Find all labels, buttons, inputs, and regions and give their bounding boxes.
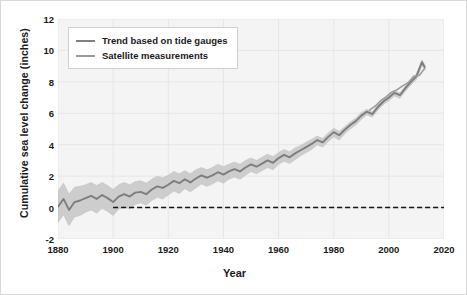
- legend-line-icon-satellite: [76, 55, 95, 57]
- x-axis-tick-1980: 1980: [304, 244, 364, 255]
- x-axis-tick-2000: 2000: [359, 244, 419, 255]
- legend-label-tide-gauges: Trend based on tide gauges: [102, 35, 228, 46]
- x-axis-tick-2020: 2020: [414, 244, 467, 255]
- y-axis-tick-4: 4: [26, 139, 54, 150]
- y-axis-tick-6: 6: [26, 108, 54, 119]
- x-axis-tick-1880: 1880: [28, 244, 88, 255]
- x-axis-tick-1920: 1920: [138, 244, 198, 255]
- y-axis-tick--2: -2: [26, 234, 54, 245]
- x-axis-tick-1900: 1900: [83, 244, 143, 255]
- x-axis-tick-1960: 1960: [249, 244, 309, 255]
- legend-item-tide-gauges: Trend based on tide gauges: [76, 33, 228, 48]
- legend-item-satellite: Satellite measurements: [76, 48, 228, 63]
- y-axis-tick-12: 12: [26, 14, 54, 25]
- x-axis-label: Year: [1, 267, 467, 279]
- y-axis-tick-8: 8: [26, 76, 54, 87]
- legend-line-icon-tide-gauges: [76, 40, 95, 42]
- sea-level-chart-figure: Cumulative sea level change (inches) Yea…: [0, 0, 467, 295]
- y-axis-tick-10: 10: [26, 45, 54, 56]
- x-axis-tick-labels: 18801900192019401960198020002020: [1, 244, 467, 260]
- y-axis-tick-0: 0: [26, 202, 54, 213]
- legend-label-satellite: Satellite measurements: [102, 50, 208, 61]
- y-axis-tick-2: 2: [26, 171, 54, 182]
- chart-legend: Trend based on tide gauges Satellite mea…: [68, 27, 238, 69]
- x-axis-tick-1940: 1940: [193, 244, 253, 255]
- plot-area: Trend based on tide gauges Satellite mea…: [58, 19, 444, 239]
